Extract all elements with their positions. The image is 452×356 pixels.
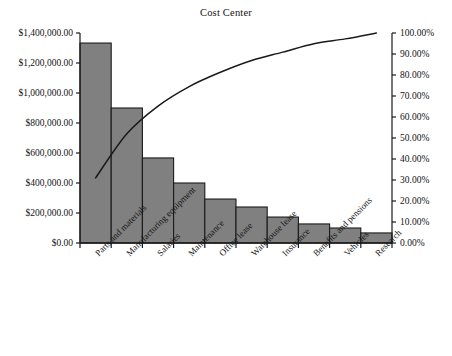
y-axis-right-tick-label-2: 20.00% (400, 196, 429, 206)
y-axis-left-tick-label-2: $400,000.00 (26, 178, 74, 188)
y-axis-left-tick-label-6: $1,200,000.00 (18, 58, 73, 68)
y-axis-left-tick-label-4: $800,000.00 (26, 118, 74, 128)
y-axis-right-tick-label-0: 0.00% (400, 238, 425, 248)
y-axis-right-tick-label-7: 70.00% (400, 91, 429, 101)
y-axis-left-tick-label-7: $1,400,000.00 (18, 28, 73, 38)
y-axis-left-tick-label-0: $0.00 (52, 238, 73, 248)
y-axis-right-tick-label-5: 50.00% (400, 133, 429, 143)
pareto-chart: Cost Center $0.00$200,000.00$400,000.00$… (0, 0, 452, 356)
y-axis-right-tick-label-1: 10.00% (400, 217, 429, 227)
y-axis-right-tick-label-9: 90.00% (400, 49, 429, 59)
y-axis-right-tick-label-10: 100.00% (400, 28, 434, 38)
y-axis-left-tick-label-5: $1,000,000.00 (18, 88, 73, 98)
y-axis-right-tick-label-3: 30.00% (400, 175, 429, 185)
bars-group (80, 43, 392, 243)
y-axis-right-tick-label-8: 80.00% (400, 70, 429, 80)
y-axis-left-tick-label-3: $600,000.00 (26, 148, 74, 158)
y-axis-right-tick-label-6: 60.00% (400, 112, 429, 122)
bar-0 (80, 43, 111, 243)
y-axis-right-tick-label-4: 40.00% (400, 154, 429, 164)
y-axis-left-tick-label-1: $200,000.00 (26, 208, 74, 218)
